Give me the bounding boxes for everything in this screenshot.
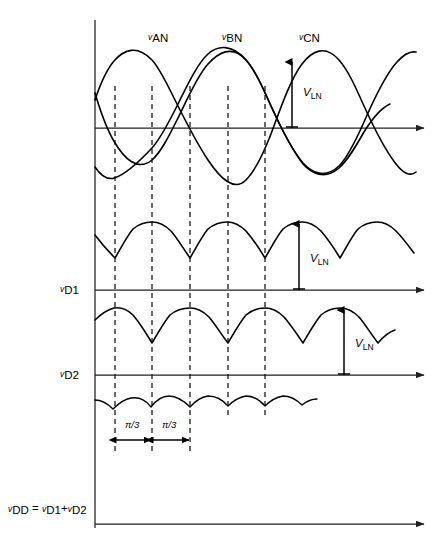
vln-d1-sub: LN	[318, 257, 329, 267]
waveform-vd2	[95, 308, 395, 343]
v-d1-label: vD1	[60, 284, 79, 296]
pi-over-3-label-2: π/3	[162, 419, 177, 430]
v-dd-sum-label: vDD = vD1+vD2	[8, 502, 87, 516]
v-an-label-sub: AN	[152, 32, 168, 44]
waveform-vdd-ripple	[95, 396, 317, 409]
v-dd-t1-sub: D1	[46, 504, 61, 516]
v-bn-label-sub: BN	[226, 32, 242, 44]
v-bn-label: vBN	[222, 32, 242, 44]
pi-over-3-label-1: π/3	[125, 419, 140, 430]
figure-canvas: vAN vBN vCN vD1 vD2 VLN VLN	[0, 0, 439, 548]
vln-marker-d2-label: VLN	[355, 337, 374, 352]
vln-d2-sub: LN	[363, 342, 374, 352]
labels-group: vAN vBN vCN vD1 vD2 VLN VLN	[8, 32, 374, 516]
vln-marker-d2	[338, 310, 350, 375]
v-dd-equals: =	[29, 502, 42, 514]
axes-group	[95, 20, 424, 528]
vln-marker-top-label: VLN	[303, 86, 322, 101]
v-dd-sub: DD	[12, 504, 29, 516]
waveform-vd1	[95, 222, 414, 258]
v-an-label: vAN	[148, 32, 168, 44]
waveform-vd1-group	[95, 222, 414, 258]
phase-voltage-waveforms	[95, 48, 416, 185]
waveform-vbn	[95, 51, 416, 173]
waveform-vdd-ripple-group	[95, 396, 317, 409]
v-d2-label-sub: D2	[64, 369, 79, 381]
vln-marker-d1	[293, 224, 305, 290]
v-cn-label-sub: CN	[303, 32, 320, 44]
v-cn-label: vCN	[299, 32, 320, 44]
v-d2-label: vD2	[60, 369, 79, 381]
vln-marker-d1-label: VLN	[310, 252, 329, 267]
waveform-vcn	[95, 48, 390, 179]
waveform-vd2-group	[95, 308, 395, 343]
waveform-figure: vAN vBN vCN vD1 vD2 VLN VLN	[0, 0, 439, 548]
v-dd-t2-sub: D2	[72, 504, 87, 516]
v-d1-label-sub: D1	[64, 284, 79, 296]
amplitude-markers-group	[286, 62, 350, 375]
vln-top-sub: LN	[311, 91, 322, 101]
